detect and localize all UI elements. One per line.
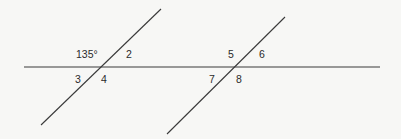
angle-label-135: 135° xyxy=(76,49,98,60)
angle-label-2: 2 xyxy=(126,49,132,60)
diagram-canvas: 135° 2 3 4 5 6 7 8 xyxy=(0,0,401,139)
angle-label-4: 4 xyxy=(101,74,107,85)
angle-label-7: 7 xyxy=(209,74,215,85)
angle-label-8: 8 xyxy=(236,74,242,85)
right-transversal-line xyxy=(167,17,285,134)
angle-label-3: 3 xyxy=(75,74,81,85)
angle-label-5: 5 xyxy=(228,49,234,60)
line-diagram xyxy=(0,0,401,139)
angle-label-6: 6 xyxy=(259,49,265,60)
